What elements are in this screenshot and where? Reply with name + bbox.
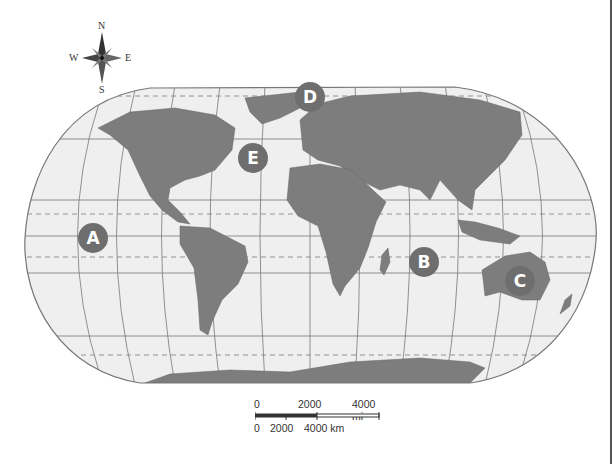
map-marker-e[interactable]: E [238, 143, 268, 173]
map-marker-d[interactable]: D [295, 82, 325, 112]
scale-km-0: 0 [254, 422, 260, 434]
scale-mi-0: 0 [254, 398, 260, 410]
map-marker-b[interactable]: B [409, 247, 439, 277]
scale-bar-line [255, 412, 381, 420]
scale-bar: 0 2000 4000 mi 0 2000 4000 km [252, 398, 382, 438]
scale-km-2000: 2000 [270, 422, 293, 434]
map-marker-a[interactable]: A [78, 223, 108, 253]
map-marker-c[interactable]: C [505, 266, 535, 296]
scale-mi-2000: 2000 [298, 398, 321, 410]
scale-km-4000: 4000 km [304, 422, 344, 434]
